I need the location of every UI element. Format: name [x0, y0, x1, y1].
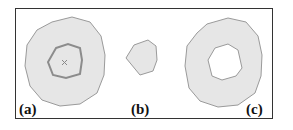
panel-label-b: (b) [131, 102, 149, 117]
panel-label-c: (c) [246, 102, 263, 117]
panel-label-a: (a) [19, 102, 37, 117]
region-b [126, 40, 157, 75]
region-c-with-hole [185, 18, 262, 107]
